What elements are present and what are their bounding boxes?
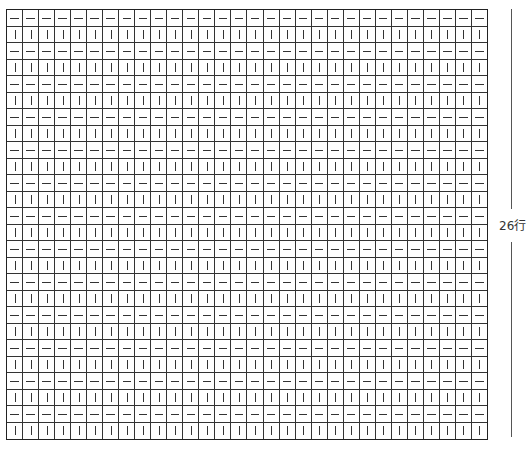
purl-stitch-icon [408,241,424,258]
purl-stitch-icon [360,208,376,225]
knit-stitch-icon [424,225,440,242]
knit-stitch-icon [103,27,119,44]
chart-row [7,258,487,275]
knit-stitch-icon [247,27,263,44]
knit-stitch-icon [87,159,103,176]
knit-stitch-icon [360,60,376,77]
knit-stitch-icon [183,324,199,341]
knit-stitch-icon [328,192,344,209]
purl-stitch-icon [456,373,472,390]
knit-stitch-icon [408,258,424,275]
purl-stitch-icon [215,109,231,126]
purl-stitch-icon [119,208,135,225]
purl-stitch-icon [376,43,392,60]
chart-row [7,93,487,110]
knit-stitch-icon [344,423,360,440]
purl-stitch-icon [264,10,280,27]
purl-stitch-icon [215,208,231,225]
purl-stitch-icon [296,274,312,291]
knit-stitch-icon [296,192,312,209]
knit-stitch-icon [167,258,183,275]
knit-stitch-icon [103,126,119,143]
knit-stitch-icon [392,357,408,374]
knit-stitch-icon [408,60,424,77]
knit-stitch-icon [151,225,167,242]
knit-stitch-icon [440,93,456,110]
knit-stitch-icon [408,159,424,176]
purl-stitch-icon [55,109,71,126]
knit-stitch-icon [7,258,23,275]
knit-stitch-icon [376,258,392,275]
knit-stitch-icon [71,159,87,176]
purl-stitch-icon [360,274,376,291]
purl-stitch-icon [231,10,247,27]
chart-row [7,10,487,27]
purl-stitch-icon [456,340,472,357]
purl-stitch-icon [183,241,199,258]
knit-stitch-icon [360,357,376,374]
purl-stitch-icon [472,142,487,159]
knit-stitch-icon [199,93,215,110]
purl-stitch-icon [312,241,328,258]
purl-stitch-icon [296,10,312,27]
chart-row [7,76,487,93]
purl-stitch-icon [328,307,344,324]
knit-stitch-icon [472,423,487,440]
knit-stitch-icon [360,225,376,242]
purl-stitch-icon [408,307,424,324]
knit-stitch-icon [296,126,312,143]
knit-stitch-icon [456,258,472,275]
knit-stitch-icon [167,390,183,407]
purl-stitch-icon [328,340,344,357]
purl-stitch-icon [440,406,456,423]
knit-stitch-icon [135,27,151,44]
knit-stitch-icon [376,93,392,110]
purl-stitch-icon [151,76,167,93]
knit-stitch-icon [264,27,280,44]
purl-stitch-icon [39,109,55,126]
purl-stitch-icon [392,340,408,357]
chart-row [7,373,487,390]
knit-stitch-icon [215,60,231,77]
purl-stitch-icon [408,10,424,27]
purl-stitch-icon [183,373,199,390]
knit-stitch-icon [440,357,456,374]
purl-stitch-icon [215,274,231,291]
purl-stitch-icon [183,175,199,192]
knit-stitch-icon [71,324,87,341]
purl-stitch-icon [456,43,472,60]
purl-stitch-icon [408,175,424,192]
purl-stitch-icon [360,373,376,390]
knit-stitch-icon [456,225,472,242]
knit-stitch-icon [392,60,408,77]
knit-stitch-icon [167,27,183,44]
purl-stitch-icon [440,373,456,390]
knit-stitch-icon [183,159,199,176]
knit-stitch-icon [472,225,487,242]
purl-stitch-icon [231,340,247,357]
purl-stitch-icon [312,274,328,291]
knit-stitch-icon [55,390,71,407]
purl-stitch-icon [440,109,456,126]
knit-stitch-icon [328,423,344,440]
purl-stitch-icon [424,76,440,93]
knit-stitch-icon [296,324,312,341]
purl-stitch-icon [247,43,263,60]
knit-stitch-icon [312,324,328,341]
purl-stitch-icon [344,76,360,93]
chart-row [7,390,487,407]
purl-stitch-icon [23,340,39,357]
knit-stitch-icon [135,225,151,242]
knit-stitch-icon [247,126,263,143]
knit-stitch-icon [23,27,39,44]
knit-stitch-icon [183,60,199,77]
purl-stitch-icon [71,142,87,159]
purl-stitch-icon [296,109,312,126]
purl-stitch-icon [247,76,263,93]
purl-stitch-icon [264,142,280,159]
purl-stitch-icon [392,109,408,126]
knit-stitch-icon [87,423,103,440]
purl-stitch-icon [7,307,23,324]
knit-stitch-icon [231,93,247,110]
knit-stitch-icon [231,291,247,308]
